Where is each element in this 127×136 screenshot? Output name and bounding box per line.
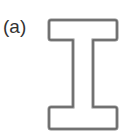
i-beam-outline-inner xyxy=(49,20,117,129)
i-beam-outline xyxy=(49,20,117,129)
i-beam-diagram xyxy=(0,0,127,136)
